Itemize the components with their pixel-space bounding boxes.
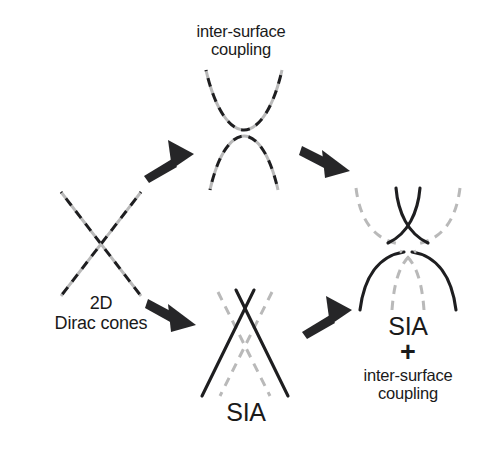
- sia-graphic: [196, 288, 294, 398]
- gapped-parabola-svg: [196, 68, 292, 192]
- inter-surface-coupling-label-line1: inter-surface: [176, 22, 306, 40]
- sia-label: SIA: [198, 398, 294, 426]
- lower-parabola-gray-dashed: [210, 136, 278, 190]
- lower-gray-curve-right: [400, 251, 424, 310]
- inter-surface-coupling-label-line2: coupling: [176, 40, 306, 58]
- inter-surface-coupling-graphic: [196, 68, 292, 192]
- figure-canvas: inter-surface coupling 2D Dirac cones: [0, 0, 481, 452]
- dirac-cones-graphic: [55, 190, 147, 298]
- sia-x-svg: [196, 288, 294, 398]
- arrow-start-to-bottom: [146, 295, 202, 341]
- lower-gray-curve-left: [392, 251, 416, 310]
- dirac-cone-x-svg: [55, 190, 147, 298]
- sia-plus-coupling-graphic: [352, 186, 464, 312]
- upper-parabola-black-dashed: [206, 70, 282, 130]
- lower-black-parabola-right: [412, 252, 456, 310]
- arrow-start-to-top-glyph: [144, 140, 194, 183]
- arrow-bottom-to-final: [300, 294, 356, 340]
- sia-plus-coupling-label-sia: SIA: [338, 312, 478, 340]
- arrow-start-to-bottom-glyph: [145, 299, 196, 332]
- arrow-start-to-top: [142, 136, 198, 182]
- sia-plus-coupling-label: SIA + inter-surface coupling: [338, 312, 478, 403]
- lower-parabola-black-dashed: [210, 136, 278, 190]
- upper-gray-parabola-right: [416, 188, 460, 244]
- inter-surface-coupling-label: inter-surface coupling: [176, 22, 306, 59]
- sia-plus-coupling-label-line3: coupling: [338, 384, 478, 402]
- upper-gray-parabola-left: [356, 188, 400, 244]
- sia-plus-coupling-label-plus: +: [338, 340, 478, 366]
- sia-plus-coupling-svg: [352, 186, 464, 312]
- sia-label-text: SIA: [198, 398, 294, 426]
- lower-black-parabola-left: [360, 252, 404, 310]
- arrow-top-to-final-glyph: [299, 146, 350, 178]
- arrow-top-to-final: [300, 140, 356, 186]
- sia-plus-coupling-label-line2: inter-surface: [338, 366, 478, 384]
- arrow-bottom-to-final-glyph: [302, 296, 352, 339]
- upper-parabola-gray-dashed: [206, 70, 282, 130]
